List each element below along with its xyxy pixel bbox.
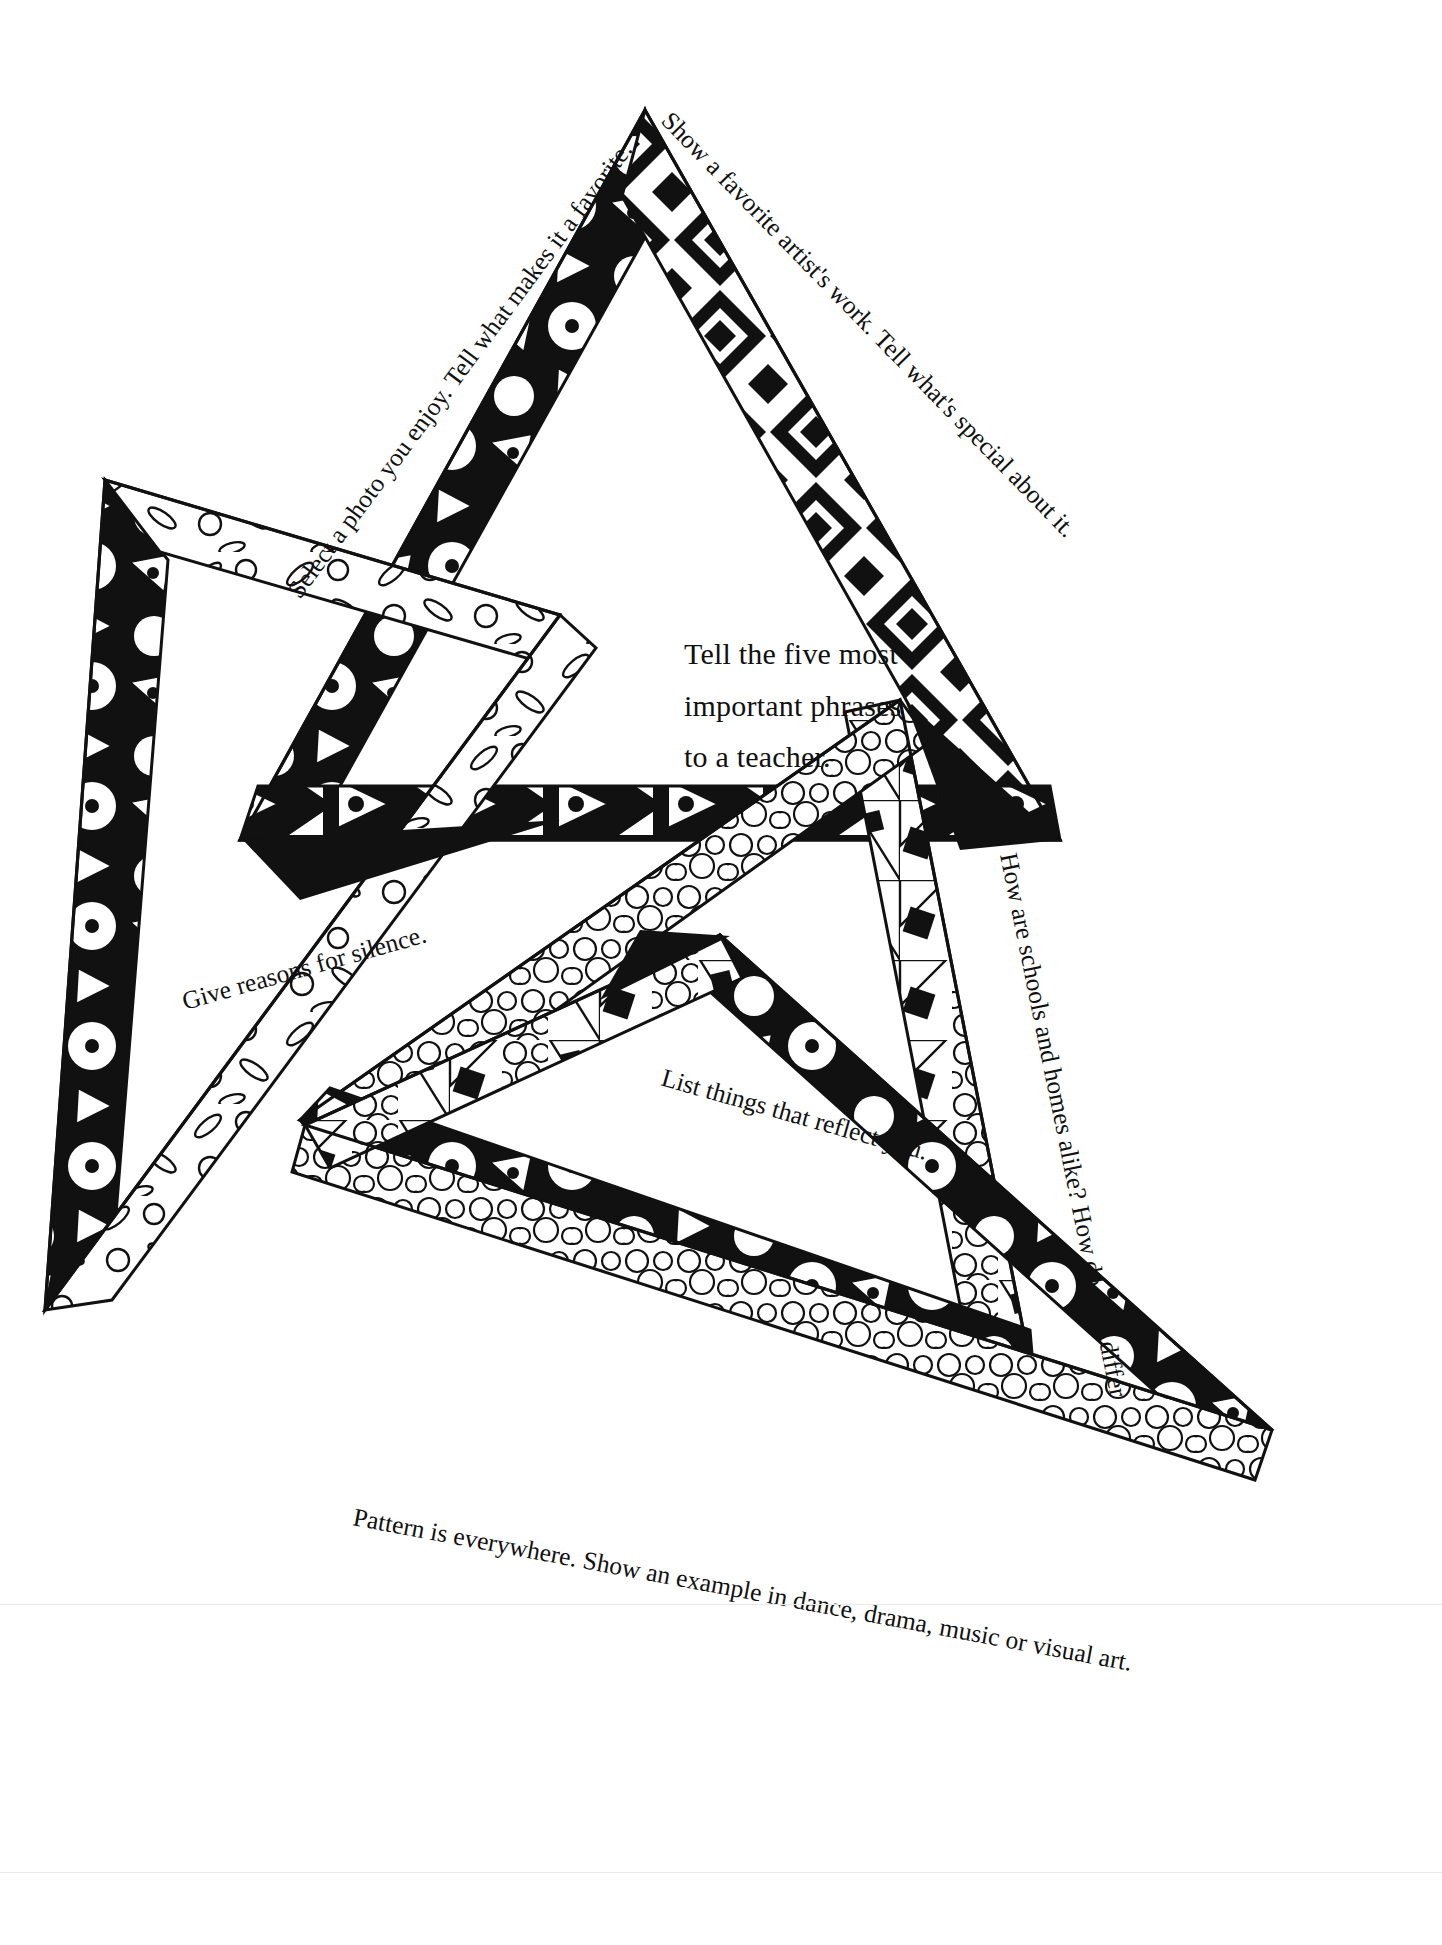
label-pattern-everywhere: Pattern is everywhere. Show an example i… — [351, 1502, 1135, 1677]
triangles-artwork: Select a photo you enjoy. Tell what make… — [0, 0, 1442, 1945]
center-prompt: Tell the five most important phrases to … — [684, 628, 1014, 783]
triangle-bottom — [292, 935, 1272, 1480]
worksheet-page: Select a photo you enjoy. Tell what make… — [0, 0, 1442, 1945]
center-prompt-line-1: Tell the five most — [684, 628, 1014, 680]
scan-fold-line-upper — [0, 1604, 1442, 1605]
center-prompt-line-2: important phrases — [684, 680, 1014, 732]
scan-fold-line-lower — [0, 1872, 1442, 1873]
center-prompt-line-3: to a teacher. — [684, 731, 1014, 783]
